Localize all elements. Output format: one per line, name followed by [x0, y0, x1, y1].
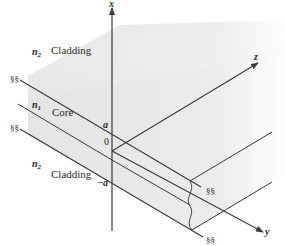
tick-label-minus-a: −a [97, 177, 108, 188]
tick-label-origin: 0 [104, 136, 109, 147]
index-subscript: 2 [37, 163, 42, 171]
region-label-lower-cladding: Cladding [51, 168, 92, 180]
break-symbol-right-bottom: §§ [206, 235, 215, 245]
y-axis-label: y [264, 226, 270, 237]
index-label-upper-cladding: n2 [32, 46, 42, 59]
region-label-upper-cladding: Cladding [51, 44, 92, 56]
tick-label-a: a [103, 119, 108, 130]
z-axis-label: z [253, 51, 258, 62]
waveguide-diagram: §§ §§ §§ §§ x z y a 0 −a n2 Cladding n1 … [0, 0, 285, 246]
break-symbol-left-bottom: §§ [10, 123, 19, 133]
index-label-lower-cladding: n2 [32, 158, 42, 171]
x-axis-label: x [108, 0, 114, 9]
break-symbol-left-top: §§ [10, 74, 19, 84]
break-symbol-right-top: §§ [206, 186, 215, 196]
region-label-core: Core [52, 106, 74, 118]
index-subscript: 2 [37, 51, 42, 59]
index-subscript: 1 [38, 104, 42, 112]
